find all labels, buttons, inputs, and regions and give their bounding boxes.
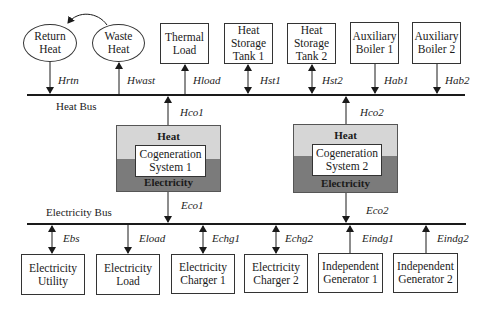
flow-label-echg1: Echg1: [212, 232, 240, 244]
flow-label-hrtn: Hrtn: [58, 74, 79, 86]
electricity-charger-2-node: Electricity Charger 2: [244, 254, 308, 293]
flow-label-eco2: Eco2: [366, 204, 389, 216]
auxiliary-boiler-2-node: Auxiliary Boiler 2: [412, 22, 461, 64]
flow-label-hst1: Hst1: [260, 74, 281, 86]
cogen-2-inner-box: Cogeneration System 2: [312, 144, 382, 176]
flow-label-hab1: Hab1: [384, 74, 408, 86]
cogeneration-system-1: Heat Cogeneration System 1 Electricity: [116, 125, 221, 192]
flow-label-eindg2: Eindg2: [437, 232, 469, 244]
electricity-utility-node: Electricity Utility: [21, 254, 85, 295]
flow-label-ebs: Ebs: [63, 232, 80, 244]
flow-label-eco1: Eco1: [181, 199, 204, 211]
cogeneration-system-2: Heat Cogeneration System 2 Electricity: [293, 124, 398, 193]
flow-label-hst2: Hst2: [322, 74, 343, 86]
heat-storage-tank-2-node: Heat Storage Tank 2: [287, 23, 336, 64]
heat-storage-tank-1-node: Heat Storage Tank 1: [224, 23, 273, 64]
flow-label-hco1: Hco1: [180, 106, 204, 118]
cogen-2-heat-label: Heat: [294, 129, 397, 141]
independent-generator-2-node: Independent Generator 2: [393, 253, 458, 293]
cogen-2-electricity-label: Electricity: [294, 177, 397, 189]
cogen-1-inner-box: Cogeneration System 1: [135, 145, 206, 177]
waste-to-return-arc: [68, 14, 107, 25]
heat-bus-label: Heat Bus: [56, 100, 97, 112]
cogen-1-heat-label: Heat: [117, 130, 220, 142]
electricity-load-node: Electricity Load: [96, 254, 160, 295]
waste-heat-node: Waste Heat: [92, 24, 145, 62]
cogen-1-electricity-label: Electricity: [117, 176, 220, 188]
flow-label-eload: Eload: [139, 232, 165, 244]
electricity-charger-1-node: Electricity Charger 1: [171, 254, 235, 294]
flow-label-hab2: Hab2: [445, 74, 469, 86]
flow-label-echg2: Echg2: [285, 232, 313, 244]
auxiliary-boiler-1-node: Auxiliary Boiler 1: [350, 22, 399, 64]
independent-generator-1-node: Independent Generator 1: [318, 253, 383, 293]
energy-system-diagram: Return Heat Waste Heat Thermal Load Heat…: [0, 0, 488, 311]
electricity-bus-label: Electricity Bus: [46, 206, 112, 218]
flow-label-eindg1: Eindg1: [362, 232, 394, 244]
flow-label-hwast: Hwast: [127, 74, 155, 86]
flow-label-hload: Hload: [193, 74, 221, 86]
thermal-load-node: Thermal Load: [160, 23, 209, 64]
flow-label-hco2: Hco2: [360, 106, 384, 118]
return-heat-node: Return Heat: [23, 24, 77, 62]
